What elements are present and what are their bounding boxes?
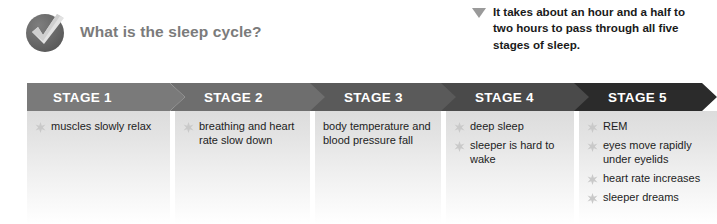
- stage-body-5: REMeyes move rapidly under eyelidsheart …: [579, 111, 717, 224]
- bullet-star-icon: [454, 122, 465, 133]
- page-title: What is the sleep cycle?: [80, 23, 262, 41]
- stage-5-bullet-2: eyes move rapidly under eyelids: [587, 139, 711, 167]
- stage-label-2: STAGE 2: [204, 90, 263, 105]
- stage-1-bullet-1: muscles slowly relax: [35, 120, 164, 134]
- stage-label-5: STAGE 5: [608, 90, 667, 105]
- stage-body-2: breathing and heart rate slow down: [175, 111, 310, 224]
- bullet-text: breathing and heart rate slow down: [199, 120, 304, 148]
- stage-bodies-row: muscles slowly relaxbreathing and heart …: [27, 111, 692, 224]
- check-badge-icon: [24, 10, 68, 54]
- stage-body-4: deep sleepsleeper is hard to wake: [446, 111, 574, 224]
- bullet-star-icon: [454, 141, 465, 152]
- header-area: What is the sleep cycle? It takes about …: [0, 0, 715, 78]
- bullet-text: muscles slowly relax: [51, 120, 151, 134]
- stage-2-bullet-1: breathing and heart rate slow down: [183, 120, 304, 148]
- stage-banner-row: STAGE 1STAGE 2STAGE 3STAGE 4STAGE 5: [27, 83, 692, 111]
- bullet-star-icon: [35, 122, 46, 133]
- stage-banner-1: STAGE 1: [27, 83, 185, 111]
- stage-5-bullet-4: sleeper dreams: [587, 191, 711, 205]
- stage-banner-5: STAGE 5: [574, 83, 717, 111]
- bullet-star-icon: [183, 122, 194, 133]
- callout-note: It takes about an hour and a half to two…: [472, 4, 708, 53]
- bullet-text: heart rate increases: [603, 172, 700, 186]
- stage-label-3: STAGE 3: [344, 90, 403, 105]
- stage-5-bullet-1: REM: [587, 120, 711, 134]
- bullet-text: sleeper dreams: [603, 191, 679, 205]
- bullet-text: REM: [603, 120, 627, 134]
- bullet-star-icon: [587, 141, 598, 152]
- stage-5-bullet-3: heart rate increases: [587, 172, 711, 186]
- callout-text: It takes about an hour and a half to two…: [493, 4, 708, 53]
- stage-label-1: STAGE 1: [53, 90, 112, 105]
- bullet-star-icon: [587, 193, 598, 204]
- bullet-star-icon: [587, 122, 598, 133]
- bullet-text: eyes move rapidly under eyelids: [603, 139, 711, 167]
- triangle-down-icon: [472, 8, 486, 18]
- stage-4-bullet-2: sleeper is hard to wake: [454, 139, 568, 167]
- bullet-text: deep sleep: [470, 120, 524, 134]
- stage-3-bullet-1: body temperature and blood pressure fall: [323, 120, 435, 148]
- checkmark-glyph: [24, 10, 68, 54]
- stage-4-bullet-1: deep sleep: [454, 120, 568, 134]
- bullet-text: body temperature and blood pressure fall: [323, 120, 435, 148]
- stage-label-4: STAGE 4: [475, 90, 534, 105]
- bullet-text: sleeper is hard to wake: [470, 139, 568, 167]
- stage-banner-2: STAGE 2: [170, 83, 328, 111]
- bullet-star-icon: [587, 174, 598, 185]
- title-group: What is the sleep cycle?: [24, 10, 262, 54]
- stage-body-1: muscles slowly relax: [27, 111, 170, 224]
- sleep-cycle-stage-chart: STAGE 1STAGE 2STAGE 3STAGE 4STAGE 5 musc…: [27, 83, 692, 224]
- stage-body-3: body temperature and blood pressure fall: [315, 111, 441, 224]
